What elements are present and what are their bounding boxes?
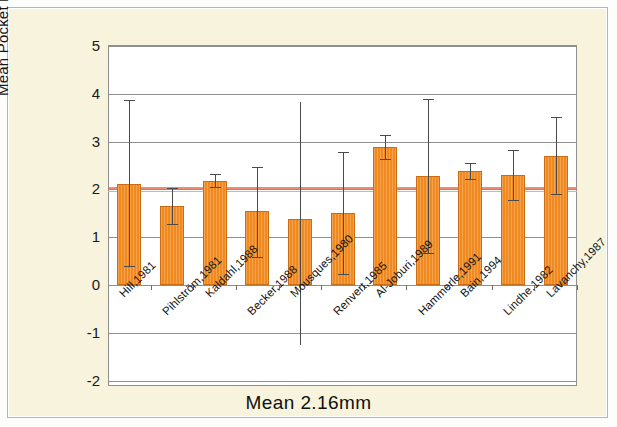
error-bar-cap-upper xyxy=(167,188,178,189)
gridline-4 xyxy=(108,94,577,95)
error-bar-cap-upper xyxy=(124,100,135,101)
error-bar-cap-upper xyxy=(380,135,391,136)
gridline-neg1 xyxy=(108,333,577,334)
error-bar-cap-lower xyxy=(167,224,178,225)
x-axis-tick xyxy=(321,285,322,290)
error-bar-line xyxy=(343,152,344,275)
error-bar-line xyxy=(385,135,386,159)
error-bar-line xyxy=(172,188,173,224)
error-bar-line xyxy=(513,150,514,200)
chart-title: Mean 2.16mm xyxy=(0,392,617,414)
error-bar-line xyxy=(215,174,216,187)
y-tick-label: -1 xyxy=(60,324,100,341)
error-bar-cap-lower xyxy=(380,159,391,160)
error-bar-cap-lower xyxy=(210,187,221,188)
error-bar-line xyxy=(556,117,557,194)
error-bar-line xyxy=(300,102,301,345)
error-bar-cap-lower xyxy=(508,200,519,201)
error-bar-line xyxy=(129,100,130,266)
error-bar-cap-upper xyxy=(423,99,434,100)
error-bar-cap-upper xyxy=(338,152,349,153)
error-bar-cap-upper xyxy=(465,163,476,164)
error-bar-cap-upper xyxy=(252,167,263,168)
error-bar-cap-upper xyxy=(210,174,221,175)
gridline-neg2 xyxy=(108,381,577,382)
error-bar-cap-lower xyxy=(551,194,562,195)
error-bar-cap-upper xyxy=(508,150,519,151)
x-axis-tick xyxy=(151,285,152,290)
y-axis-title: Mean Pocket Reduction xyxy=(0,0,11,96)
gridline-3 xyxy=(108,142,577,143)
x-axis-tick xyxy=(406,285,407,290)
y-tick-label: 0 xyxy=(60,276,100,293)
x-axis-tick xyxy=(492,285,493,290)
y-tick-label: 3 xyxy=(60,133,100,150)
error-bar-line xyxy=(257,167,258,257)
y-tick-label: 4 xyxy=(60,85,100,102)
error-bar-cap-upper xyxy=(551,117,562,118)
y-tick-label: 2 xyxy=(60,180,100,197)
error-bar-cap-lower xyxy=(338,274,349,275)
gridline-5 xyxy=(108,46,577,47)
y-tick-label: 5 xyxy=(60,37,100,54)
gridline-0 xyxy=(108,285,577,286)
error-bar-line xyxy=(428,99,429,253)
x-axis-tick xyxy=(236,285,237,290)
x-axis-tick xyxy=(577,285,578,290)
error-bar-cap-lower xyxy=(124,266,135,267)
error-bar-cap-lower xyxy=(465,179,476,180)
chart-page: Mean Pocket Reduction 543210-1-2 Hill,19… xyxy=(0,0,617,427)
error-bar-line xyxy=(470,163,471,179)
y-tick-label: 1 xyxy=(60,228,100,245)
y-tick-label: -2 xyxy=(60,372,100,389)
